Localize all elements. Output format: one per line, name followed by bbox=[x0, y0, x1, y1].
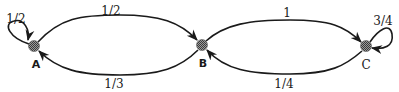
node-label-b: B bbox=[199, 58, 207, 69]
diagram-canvas bbox=[0, 0, 399, 92]
edge-c-to-b bbox=[207, 50, 362, 74]
node-a bbox=[29, 41, 40, 52]
edge-label-b-c: 1 bbox=[283, 7, 291, 19]
node-label-c: C bbox=[361, 59, 370, 71]
node-label-a: A bbox=[32, 59, 41, 70]
node-b bbox=[197, 40, 208, 51]
edge-b-to-c bbox=[206, 20, 361, 42]
edge-label-a-b: 1/2 bbox=[101, 5, 120, 17]
node-c bbox=[361, 41, 372, 52]
markov-chain-diagram: 1/2 1/2 1/3 1 1/4 3/4 A B C bbox=[0, 0, 399, 92]
edge-b-to-a bbox=[39, 50, 198, 75]
edge-label-a-a: 1/2 bbox=[6, 13, 25, 25]
edge-a-to-b bbox=[38, 15, 197, 42]
edge-label-b-a: 1/3 bbox=[104, 78, 123, 90]
edge-c-c-loop bbox=[370, 28, 392, 48]
edge-label-c-c: 3/4 bbox=[373, 15, 392, 27]
edge-label-c-b: 1/4 bbox=[274, 78, 293, 90]
